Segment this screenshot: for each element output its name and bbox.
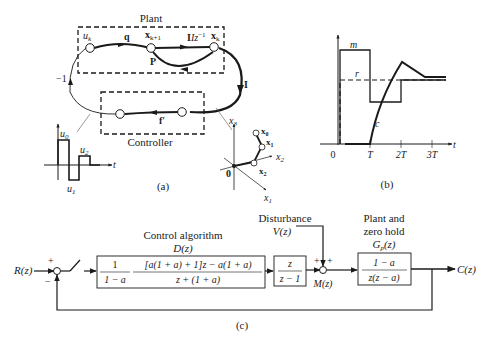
label-x2-axis: x2 [275, 151, 284, 164]
plant-title-1: Plant and [363, 212, 405, 224]
plant-label: Plant [140, 12, 163, 24]
label-x1-axis: x1 [263, 192, 272, 205]
branch-p [153, 52, 213, 66]
state-space-plot: x3 x2 x1 0 x0 x1 x2 [220, 115, 284, 205]
input-sequence-plot: u0 u2 u1 t [44, 124, 116, 196]
series-r [340, 80, 446, 144]
panel-b-time-response: m r c t 0 T 2T 3T (b) [320, 35, 456, 191]
caption-a: (a) [157, 180, 170, 193]
sum1-minus: − [45, 276, 51, 287]
tick-0: 0 [331, 149, 336, 160]
figure-canvas: Plant Controller uk q xk+1 IIz−1 xk [0, 0, 499, 349]
label-x-k: xk [211, 30, 220, 43]
sampler-switch [70, 260, 80, 271]
sum2-plus-right: + [327, 255, 333, 266]
branch-minus-one [70, 48, 116, 114]
label-q: q [124, 31, 130, 42]
signal-m-z: M(z) [313, 278, 334, 290]
control-title: Control algorithm [143, 229, 223, 241]
label-c: c [375, 118, 380, 129]
label-t: t [113, 159, 116, 170]
label-t-axis-b: t [453, 139, 456, 150]
plant-name: Gp(z) [372, 238, 395, 252]
control-name: D(z) [172, 242, 193, 255]
label-origin: 0 [226, 168, 231, 179]
output-c-z: C(z) [457, 263, 476, 276]
node-controller-in [178, 108, 187, 117]
summing-junction-1 [54, 268, 61, 275]
plant-title-2: zero hold [363, 225, 405, 237]
panel-a-signal-flow-graph: Plant Controller uk q xk+1 IIz−1 xk [44, 12, 284, 205]
label-p: P [150, 56, 156, 67]
caption-b: (b) [381, 178, 394, 191]
series-c [345, 62, 446, 144]
disturbance-label: Disturbance [258, 212, 311, 224]
controller-label: Controller [127, 136, 173, 148]
sum1-plus: + [48, 255, 54, 266]
svg-text:z + (1 + a): z + (1 + a) [175, 274, 221, 286]
label-minus-one: −1 [56, 73, 67, 84]
label-u-k: uk [83, 30, 92, 43]
label-u0: u0 [60, 128, 69, 141]
summing-junction-2 [320, 267, 327, 274]
label-iz-inv: IIz−1 [187, 31, 206, 43]
label-pt-x0: x0 [261, 126, 269, 137]
svg-text:1: 1 [113, 259, 118, 270]
node-x-k-plus-1 [147, 44, 156, 53]
series-m [340, 50, 446, 144]
tick-T: T [367, 149, 374, 160]
svg-text:1 − a: 1 − a [104, 274, 126, 285]
svg-text:[a(1 + a) + 1]z − a(1 + a): [a(1 + a) + 1]z − a(1 + a) [145, 259, 253, 271]
sum2-plus-left: + [314, 255, 320, 266]
label-m: m [350, 39, 357, 50]
label-r: r [355, 68, 359, 79]
label-u2: u2 [80, 144, 89, 157]
svg-text:z(z − a): z(z − a) [367, 272, 400, 284]
node-u-k [86, 44, 95, 53]
node-x-k [210, 43, 219, 52]
branch-i [190, 48, 242, 112]
tick-3T: 3T [426, 149, 439, 160]
label-pt-x2: x2 [259, 166, 267, 177]
svg-text:1 − a: 1 − a [373, 257, 395, 268]
label-u1: u1 [67, 183, 76, 196]
label-f-prime: f′ [159, 115, 165, 126]
tick-2T: 2T [396, 149, 408, 160]
label-pt-x1: x1 [266, 137, 274, 148]
svg-text:z: z [287, 258, 292, 269]
disturbance-name: V(z) [273, 225, 292, 238]
input-r-z: R(z) [13, 264, 33, 277]
panel-c-block-diagram: R(z) + − Control algorithm D(z) 1 1 − a … [13, 212, 476, 332]
svg-text:z − 1: z − 1 [279, 273, 301, 284]
node-controller-out [116, 110, 125, 119]
label-i: I [244, 79, 248, 90]
label-x-k-plus-1: xk+1 [145, 29, 161, 42]
pointer-to-input-plot [77, 114, 90, 132]
caption-c: (c) [236, 319, 249, 332]
